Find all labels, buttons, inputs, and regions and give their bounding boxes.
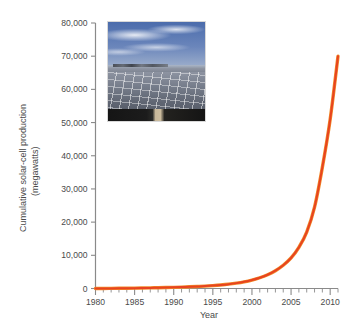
y-tick-label: 40,000 (61, 151, 88, 161)
y-tick-label: 10,000 (61, 250, 88, 260)
y-axis-label-line1: Cumulative solar-cell production (18, 104, 28, 232)
solar-production-chart-figure: Cumulative solar-cell production (megawa… (0, 0, 352, 331)
x-axis-label: Year (200, 310, 218, 320)
x-tick-label: 1980 (86, 297, 105, 307)
x-tick-label: 1985 (125, 297, 144, 307)
photo-border (107, 21, 206, 122)
y-tick-label: 50,000 (61, 118, 88, 128)
y-tick-label: 30,000 (61, 184, 88, 194)
y-axis-ticks: 010,00020,00030,00040,00050,00060,00070,… (61, 18, 95, 294)
y-tick-label: 0 (83, 284, 88, 294)
x-tick-label: 1990 (164, 297, 183, 307)
x-tick-label: 1995 (203, 297, 222, 307)
x-tick-label: 2005 (282, 297, 301, 307)
x-tick-label: 2010 (321, 297, 340, 307)
x-tick-label: 2000 (242, 297, 261, 307)
solar-farm-photograph-inset (107, 21, 206, 122)
y-tick-label: 70,000 (61, 51, 88, 61)
y-tick-label: 20,000 (61, 217, 88, 227)
y-axis-label-line2: (megawatts) (30, 146, 40, 196)
x-axis-ticks: 1980198519901995200020052010 (86, 289, 340, 308)
y-tick-label: 80,000 (61, 18, 88, 28)
y-tick-label: 60,000 (61, 84, 88, 94)
